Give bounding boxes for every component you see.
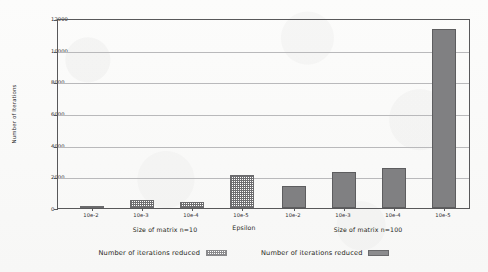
x-tick-label-n100-10e-5: 10e-5 (435, 212, 450, 218)
legend-entry-solid: Number of iterations reduced (261, 249, 389, 257)
x-tick (294, 208, 295, 211)
group-label-n100: Size of matrix n=100 (334, 226, 403, 233)
y-tick (54, 209, 58, 210)
group-label-n10: Size of matrix n=10 (133, 226, 198, 233)
bar-chart-figure: Number of Iterations 12000 10000 8000 60… (0, 0, 488, 272)
plot-area (57, 19, 470, 209)
bars-layer (58, 20, 469, 208)
legend-swatch-hatched-icon (206, 250, 227, 256)
x-tick-label-n100-10e-2: 10e-2 (285, 212, 300, 218)
x-tick-label-n100-10e-4: 10e-4 (385, 212, 400, 218)
x-tick (92, 208, 93, 211)
x-axis-title: Epsilon (232, 224, 255, 231)
x-tick (394, 208, 395, 211)
x-tick-label-n10-10e-3: 10e-3 (133, 212, 148, 218)
x-tick (242, 208, 243, 211)
bar-n10-10e-3 (130, 200, 154, 208)
x-tick (192, 208, 193, 211)
bar-n100-10e-3 (332, 172, 356, 208)
x-tick-label-n10-10e-2: 10e-2 (83, 212, 98, 218)
legend-label-hatched: Number of iterations reduced (99, 249, 200, 257)
x-tick (344, 208, 345, 211)
x-tick-label-n100-10e-3: 10e-3 (335, 212, 350, 218)
legend-entry-hatched: Number of iterations reduced (99, 249, 227, 257)
x-tick (444, 208, 445, 211)
bar-n100-10e-2 (282, 186, 306, 208)
bar-n10-10e-5 (230, 175, 254, 208)
legend-label-solid: Number of iterations reduced (261, 249, 362, 257)
bar-n100-10e-5 (432, 29, 456, 208)
y-axis-title: Number of Iterations (11, 85, 17, 144)
x-tick (142, 208, 143, 211)
chart-legend: Number of iterations reduced Number of i… (0, 249, 488, 257)
bar-n100-10e-4 (382, 168, 406, 208)
x-tick-label-n10-10e-5: 10e-5 (233, 212, 248, 218)
x-tick-label-n10-10e-4: 10e-4 (183, 212, 198, 218)
legend-swatch-solid-icon (368, 250, 389, 256)
